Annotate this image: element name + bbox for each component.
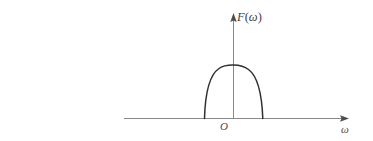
- y-axis-label-variable: ω: [249, 10, 258, 24]
- x-axis: [124, 115, 349, 121]
- y-axis-label-close-paren: ): [258, 10, 262, 24]
- y-axis-label: F(ω): [237, 10, 262, 24]
- plot-canvas: [0, 0, 373, 141]
- figure-container: F(ω) O ω: [0, 0, 373, 141]
- x-axis-label: ω: [341, 123, 349, 136]
- y-axis-label-function: F: [237, 10, 245, 24]
- origin-label: O: [220, 120, 228, 133]
